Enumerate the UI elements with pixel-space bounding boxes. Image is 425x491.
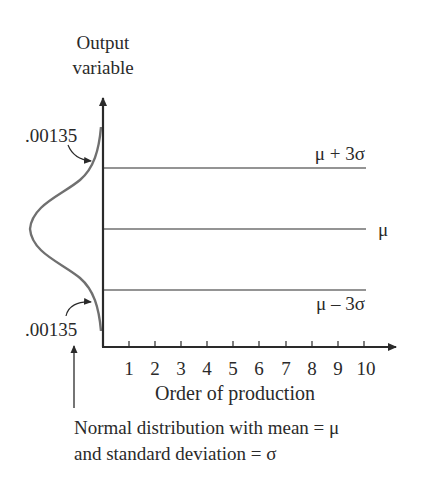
center-line-label: μ <box>378 219 388 240</box>
tick-label: 1 <box>124 358 134 379</box>
y-axis-title-line2: variable <box>72 57 133 78</box>
x-axis-tick-labels: 1 2 3 4 5 6 7 8 9 10 <box>124 358 375 379</box>
normal-distribution-curve <box>30 127 101 331</box>
tick-label: 5 <box>228 358 238 379</box>
x-axis-title: Order of production <box>155 382 315 405</box>
caption-line1: Normal distribution with mean = μ <box>74 417 339 438</box>
tick-label: 9 <box>333 358 343 379</box>
upper-tail-arrow <box>68 145 91 161</box>
tick-label: 3 <box>176 358 186 379</box>
lower-limit-label: μ – 3σ <box>316 293 365 314</box>
tick-label: 7 <box>281 358 291 379</box>
caption-line2: and standard deviation = σ <box>74 443 276 464</box>
tick-label: 4 <box>202 358 212 379</box>
tick-label: 10 <box>357 358 376 379</box>
tick-label: 2 <box>150 358 160 379</box>
lower-tail-arrow <box>66 302 91 316</box>
upper-limit-label: μ + 3σ <box>315 143 365 164</box>
tick-label: 6 <box>254 358 264 379</box>
upper-tail-probability-label: .00135 <box>25 125 77 146</box>
lower-tail-probability-label: .00135 <box>25 319 77 340</box>
control-chart-diagram: Output variable μ + 3σ μ μ – 3σ 1 2 3 4 … <box>0 0 425 491</box>
y-axis-title-line1: Output <box>77 32 131 53</box>
tick-label: 8 <box>307 358 317 379</box>
